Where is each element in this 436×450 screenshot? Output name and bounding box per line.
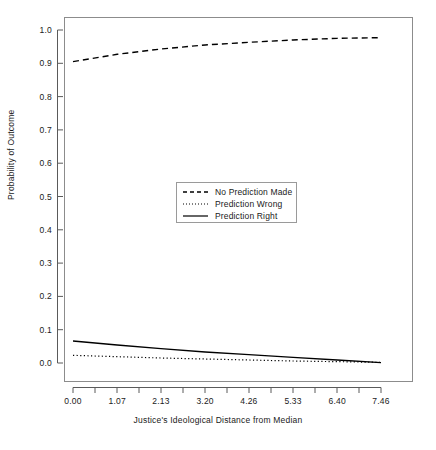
y-tick-label: 0.2: [28, 291, 52, 301]
series-line-no-prediction-made: [73, 38, 381, 62]
legend-swatch-dashed-icon: [182, 186, 209, 198]
x-tick-label: 7.46: [372, 396, 389, 406]
x-tick-label: 5.33: [284, 396, 301, 406]
y-tick-label: 0.9: [28, 58, 52, 68]
y-tick-label: 0.1: [28, 325, 52, 335]
legend-label: Prediction Wrong: [215, 199, 282, 209]
series-line-prediction-wrong: [73, 355, 381, 362]
x-tick-label: 1.07: [109, 396, 126, 406]
legend-item-prediction-right: Prediction Right: [177, 209, 296, 222]
legend-swatch-solid-icon: [182, 210, 209, 222]
legend-label: No Prediction Made: [215, 187, 292, 197]
legend-swatch-dotted-icon: [182, 198, 209, 210]
y-tick-marks: [58, 30, 64, 363]
y-axis-title: Probability of Outcome: [6, 110, 16, 200]
x-tick-label: 3.20: [196, 396, 213, 406]
y-tick-label: 0.5: [28, 192, 52, 202]
legend-label: Prediction Right: [215, 211, 277, 221]
y-tick-label: 1.0: [28, 25, 52, 35]
plot-canvas: [0, 0, 436, 450]
x-tick-label: 6.40: [329, 396, 346, 406]
y-tick-label: 0.0: [28, 358, 52, 368]
y-tick-label: 0.7: [28, 125, 52, 135]
y-tick-label: 0.6: [28, 158, 52, 168]
x-tick-label: 4.26: [240, 396, 257, 406]
x-axis-title: Justice's Ideological Distance from Medi…: [0, 415, 436, 425]
y-tick-label: 0.3: [28, 258, 52, 268]
x-tick-label: 2.13: [152, 396, 169, 406]
chart-figure: 0.00.10.20.30.40.50.60.70.80.91.0 0.001.…: [0, 0, 436, 450]
series-line-prediction-right: [73, 341, 381, 363]
chart-legend: No Prediction Made Prediction Wrong Pred…: [176, 182, 297, 223]
y-tick-label: 0.8: [28, 92, 52, 102]
x-tick-marks: [73, 388, 381, 394]
y-tick-label: 0.4: [28, 225, 52, 235]
x-tick-label: 0.00: [64, 396, 81, 406]
